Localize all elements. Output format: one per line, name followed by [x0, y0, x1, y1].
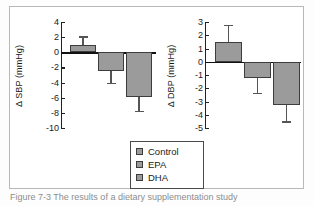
error-bar-stem: [286, 105, 287, 121]
bar-dha: [273, 62, 300, 106]
error-bar-stem: [82, 36, 83, 44]
legend-swatch-icon: [136, 174, 143, 181]
y-axis-tick-labels-sbp: 420-2-4-6-8-10: [33, 0, 59, 138]
y-tick-label: 0: [198, 58, 203, 66]
y-axis-line: [205, 22, 206, 128]
error-bar-cap: [282, 121, 291, 122]
legend-label: Control: [148, 147, 179, 157]
error-bar-cap: [79, 36, 88, 37]
y-tick-mark: [205, 128, 209, 129]
legend-label: DHA: [148, 173, 168, 183]
y-tick-label: 3: [198, 18, 203, 26]
y-tick-mark: [61, 128, 65, 129]
figure-container: Δ SBP (mmHg) 420-2-4-6-8-10 Δ DBP (mmHg)…: [0, 0, 314, 206]
y-tick-label: 0: [54, 48, 59, 56]
y-tick-label: -2: [51, 63, 59, 71]
y-tick-label: -2: [195, 84, 203, 92]
legend-item-control: Control: [136, 145, 198, 158]
error-bar-stem: [138, 97, 139, 111]
error-bar-stem: [257, 78, 258, 93]
y-axis-line: [61, 22, 62, 128]
y-tick-label: 1: [198, 45, 203, 53]
y-axis-label-sbp: Δ SBP (mmHg): [11, 24, 27, 128]
bar-control: [70, 45, 96, 53]
y-tick-label: -3: [195, 98, 203, 106]
error-bar-stem: [228, 25, 229, 42]
y-tick-label: -4: [51, 79, 59, 87]
y-tick-label: -6: [51, 94, 59, 102]
error-bar-cap: [135, 111, 144, 112]
y-tick-label: 2: [54, 33, 59, 41]
bar-dha: [126, 52, 152, 97]
chart-panel-sbp: Δ SBP (mmHg) 420-2-4-6-8-10: [9, 0, 161, 140]
legend-swatch-icon: [136, 148, 143, 155]
error-bar-cap: [107, 83, 116, 84]
y-tick-label: -5: [195, 124, 203, 132]
chart-panel-dbp: Δ DBP (mmHg) 3210-1-2-3-4-5: [161, 0, 311, 140]
legend-item-dha: DHA: [136, 171, 198, 184]
bar-epa: [244, 62, 271, 79]
y-tick-label: -1: [195, 71, 203, 79]
y-tick-label: 4: [54, 18, 59, 26]
error-bar-cap: [253, 93, 262, 94]
chart-legend: Control EPA DHA: [130, 141, 204, 189]
y-tick-label: -10: [46, 124, 59, 132]
y-tick-label: -4: [195, 111, 203, 119]
y-axis-tick-labels-dbp: 3210-1-2-3-4-5: [177, 0, 203, 138]
y-tick-label: -8: [51, 109, 59, 117]
legend-label: EPA: [148, 160, 166, 170]
bar-epa: [98, 52, 124, 71]
error-bar-stem: [110, 71, 111, 82]
error-bar-cap: [224, 25, 233, 26]
bar-control: [215, 42, 242, 62]
legend-swatch-icon: [136, 161, 143, 168]
y-tick-label: 2: [198, 31, 203, 39]
figure-caption: Figure 7-3 The results of a dietary supp…: [10, 192, 308, 204]
legend-item-epa: EPA: [136, 158, 198, 171]
